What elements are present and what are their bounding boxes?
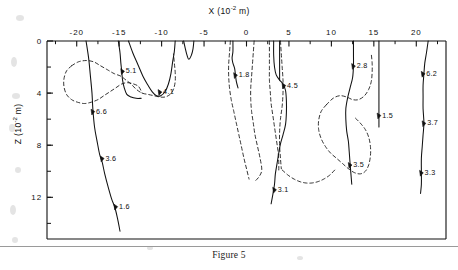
- scan-speck: [15, 167, 21, 173]
- scan-speck: [297, 256, 303, 260]
- scan-speck: [11, 57, 17, 67]
- scan-speck: [16, 15, 24, 21]
- scan-speck: [12, 93, 20, 99]
- scan-speck: [9, 124, 15, 132]
- scan-artifacts: [0, 0, 458, 270]
- scan-speck: [10, 205, 16, 215]
- figure-5-container: X (10-2 m) Z (10-2 m) -20-15-10-50510152…: [0, 0, 458, 270]
- scan-speck: [12, 237, 18, 243]
